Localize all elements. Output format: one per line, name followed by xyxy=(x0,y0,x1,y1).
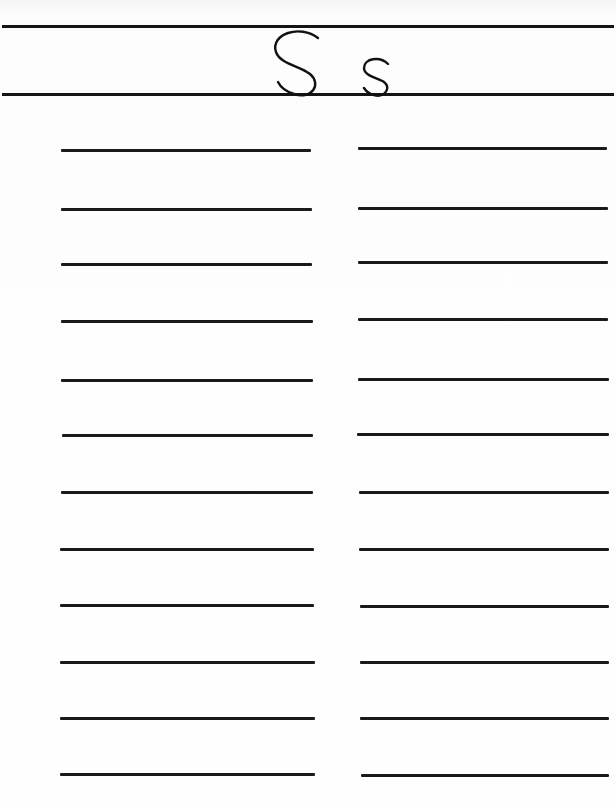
writing-line xyxy=(61,379,313,382)
worksheet-page: S s xyxy=(0,0,616,807)
writing-line xyxy=(60,604,314,607)
writing-line xyxy=(358,261,608,264)
writing-line xyxy=(358,147,607,150)
writing-line xyxy=(61,208,312,211)
writing-line xyxy=(359,548,609,551)
writing-line xyxy=(360,717,609,720)
writing-line xyxy=(359,491,609,494)
writing-line xyxy=(360,605,609,608)
writing-line xyxy=(61,320,313,323)
writing-line xyxy=(358,207,608,210)
writing-line xyxy=(358,318,608,321)
writing-line xyxy=(358,378,609,381)
writing-line xyxy=(62,434,313,437)
writing-line xyxy=(61,149,311,152)
writing-line xyxy=(60,717,315,720)
writing-line xyxy=(357,433,609,436)
lowercase-s-glyph xyxy=(364,59,388,95)
writing-line xyxy=(61,491,313,494)
writing-line xyxy=(361,774,609,777)
letter-heading: S s xyxy=(0,28,616,94)
writing-line xyxy=(60,773,315,776)
writing-line xyxy=(360,661,609,664)
uppercase-s-glyph xyxy=(275,31,318,95)
writing-line xyxy=(60,548,314,551)
writing-line xyxy=(60,661,315,664)
writing-line xyxy=(61,263,312,266)
